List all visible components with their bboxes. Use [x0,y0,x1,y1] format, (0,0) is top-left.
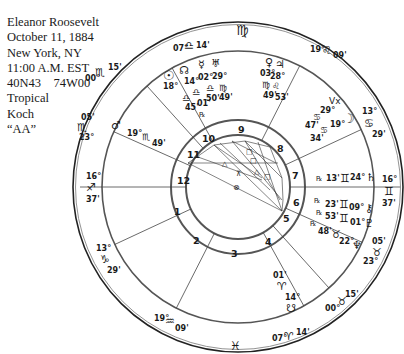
cusp-1-minute: 37' [86,195,100,204]
mars-sign-scorpio-icon: ♏ [142,132,150,142]
aspect-symbols: □ △ □ △ □ ⊼ ⊗ [222,148,271,192]
chiron-degree: 09° [349,203,364,212]
jupiter-minute: 53' [275,93,289,102]
vertex-minute: 47' [305,121,319,130]
mercury-icon: ☿ [198,58,205,71]
jupiter-icon: ♃ [275,58,285,71]
libra-icon: ♎ [184,39,194,52]
cusp-9-minute: 09' [333,51,347,60]
natal-chart-wheel: 1 2 3 4 5 6 7 8 9 10 11 12 □ △ □ △ □ ⊼ ⊗… [0,0,404,354]
uranus-minute: 49' [219,93,233,102]
cusp-6-minute: 05' [372,237,386,246]
pluto-sign-gemini-icon: ♊ [339,212,349,225]
chiron-minute: 23' [325,200,339,209]
aries-icon: ♈ [284,330,294,343]
south-node-degree: 14° [285,293,300,302]
cusp-2-minute: 29' [107,266,121,275]
mercury-minute: 50' [206,94,220,103]
cusp-12-degree: 23° [79,133,94,142]
pluto-degree: 01° [350,218,365,227]
planets: ☉ 18° ♎ 45' ☊ 14° ♎ 01' ℞ ☿ 02° ♎ 50' ♅ … [111,56,376,315]
cusp-2-degree: 13° [96,244,111,253]
house-number-3: 3 [231,248,238,259]
house-number-6: 6 [293,197,300,208]
cusp-6-degree: 23° [363,257,378,266]
sagittarius-icon: ♐ [86,181,96,194]
pluto-retrograde-icon: ℞ [316,209,322,217]
aspect-square-icon: □ [246,148,253,156]
chiron-icon: ⚷ [365,202,373,215]
house-number-4: 4 [265,236,272,247]
uranus-degree: 29° [212,72,227,81]
cancer-icon: ♋ [364,117,374,130]
house-number-7: 7 [292,170,299,181]
vertex-degree: 29° [320,106,335,115]
south-node-icon: ☋ [286,302,296,315]
venus-icon: ♀ [265,56,273,69]
leo-icon: ♌ [322,44,332,57]
vertex-icon: Vx [329,96,341,106]
house-number-2: 2 [193,235,200,246]
scorpio-icon: ♏ [95,66,105,79]
sign-pisces-icon: ♓ [230,339,241,353]
saturn-minute: 13' [326,174,340,183]
house-number-9: 9 [238,124,245,135]
sun-degree: 18° [163,82,178,91]
house-number-11: 11 [187,149,200,160]
mars-icon: ♂ [111,119,121,132]
saturn-sign-gemini-icon: ♊ [340,172,350,185]
neptune-minute: 48' [318,227,332,236]
saturn-degree: 24° [350,173,365,182]
retrograde-icon: ℞ [199,111,205,119]
gemini-icon: ♊ [384,185,394,198]
pof-minute: 01' [273,271,287,280]
house-cusp-lines [80,66,400,308]
aspect-trine-icon: △ [254,168,260,176]
moon-degree: 19° [330,120,345,129]
cusp-7-minute: 37' [382,199,396,208]
house-number-12: 12 [177,175,190,186]
aquarius-icon: ♒ [165,315,175,328]
pluto-minute: 53' [325,212,339,221]
chiron-retrograde-icon: ℞ [314,197,320,205]
moon-minute: 34' [310,134,324,143]
uranus-sign-virgo-icon: ♍ [219,83,227,93]
cusp-10-minute: 14' [196,41,210,50]
aspect-square-icon: □ [264,173,271,181]
neptune-icon: ♆ [352,239,362,252]
capricorn-icon: ♑ [100,253,110,266]
sun-icon: ☉ [163,68,175,83]
cusp-4-minute: 14' [296,328,310,337]
cusp-11-minute: 15' [108,63,122,72]
mars-degree: 19° [127,129,142,138]
mercury-degree: 02° [198,73,213,82]
part-of-fortune-center-icon: ⊗ [233,183,240,192]
house-number-5: 5 [283,213,290,224]
house-number-1: 1 [174,206,181,217]
uranus-icon: ♅ [211,57,221,70]
jupiter-degree: 28° [270,72,285,81]
cusp-8-degree: 13° [362,107,377,116]
north-node-sign-libra-icon: ♎ [192,87,200,97]
cusp-7-degree: 16° [382,175,397,184]
north-node-degree: 14° [184,77,199,86]
venus-sign-virgo-icon: ♍ [262,80,270,90]
cusp-5-minute: 15' [345,290,359,299]
cusp-1-degree: 16° [86,172,101,181]
sun-sign-libra-icon: ♎ [182,93,190,103]
jupiter-sign-leo-icon: ♌ [272,81,280,91]
saturn-icon: ♄ [366,171,376,184]
cusp-8-minute: 29' [372,130,386,139]
sign-virgo-icon: ♍ [236,22,249,38]
saturn-retrograde-icon: ℞ [316,175,322,183]
cusp-3-minute: 09' [175,324,189,333]
chiron-sign-gemini-icon: ♊ [339,198,349,211]
mars-minute: 49' [152,139,166,148]
pluto-icon: ♇ [364,217,374,230]
house-number-8: 8 [277,143,284,154]
cusp-line-12 [114,132,191,166]
aries-icon: ♈ [277,280,287,293]
mercury-sign-libra-icon: ♎ [206,83,214,93]
aspect-quincunx-icon: ⊼ [236,170,241,178]
house-number-10: 10 [202,133,216,144]
